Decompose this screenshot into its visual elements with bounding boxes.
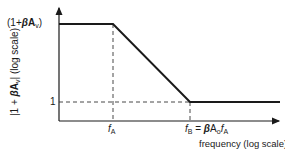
tick-top-close: ) xyxy=(39,17,42,28)
tick-top-open: (1+ xyxy=(7,17,22,28)
y-label-A: A xyxy=(9,83,20,90)
x-tick-fB: fB = βAofA xyxy=(185,124,228,135)
y-label-beta: β xyxy=(9,90,20,96)
y-tick-one: 1 xyxy=(50,97,56,107)
x-tick-fA: fA xyxy=(108,124,115,135)
magnitude-curve xyxy=(59,24,280,102)
y-label-prefix: |1 + xyxy=(9,96,20,116)
fB-A: A xyxy=(210,123,217,134)
fA-sub: A xyxy=(111,128,116,135)
y-label-suffix: | (log scale) xyxy=(9,28,20,80)
y-tick-top: (1+βAv) xyxy=(7,18,42,29)
y-label-sub: v xyxy=(14,80,21,84)
x-axis-label: frequency (log scale) xyxy=(199,139,285,149)
diagram-canvas xyxy=(0,0,285,154)
fB-f2sub: A xyxy=(223,128,228,135)
fB-eq: = xyxy=(192,123,203,134)
y-axis-label: |1 + βAv| (log scale) xyxy=(9,17,21,127)
